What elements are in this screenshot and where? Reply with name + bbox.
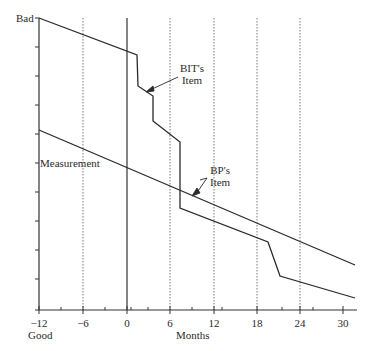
x-left-label: Good [28, 329, 52, 341]
x-tick-label: 12 [209, 317, 220, 329]
series-bps-item [39, 130, 355, 265]
x-tick-label: −12 [30, 317, 47, 329]
x-tick-label: 30 [338, 317, 349, 329]
chart-canvas [0, 0, 368, 351]
y-mid-label: Measurement [40, 157, 100, 169]
x-axis-title: Months [176, 329, 210, 341]
x-tick-label: 0 [124, 317, 130, 329]
bps-item-label-line2: Item [210, 176, 230, 188]
bps-item-label-line1: BP's [210, 164, 230, 176]
y-top-label: Bad [16, 12, 34, 24]
bits-item-label: BIT's Item [180, 62, 204, 86]
x-tick-label: −6 [77, 317, 89, 329]
bits-item-label-line1: BIT's [180, 62, 204, 74]
x-tick-label: 24 [295, 317, 306, 329]
x-tick-label: 6 [167, 317, 173, 329]
bps-item-label: BP's Item [210, 164, 230, 188]
bits-item-label-line2: Item [180, 74, 204, 86]
annotation-arrows [146, 77, 207, 196]
x-tick-label: 18 [252, 317, 263, 329]
